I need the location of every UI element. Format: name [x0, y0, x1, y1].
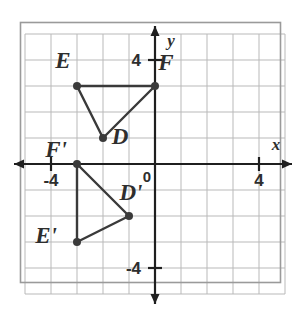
vertex-label-e: E: [54, 48, 70, 73]
vertex-point-e-prime: [73, 238, 81, 246]
vertex-point-d-prime: [125, 212, 133, 220]
y-tick-label-4: 4: [132, 51, 142, 70]
vertex-label-e-prime: E': [34, 223, 57, 248]
x-axis-label: x: [271, 135, 281, 154]
point-labels-layer: EFDF'D'E': [34, 48, 174, 248]
vertex-label-f: F: [157, 50, 173, 75]
graph-svg: y x 4 -4 -4 4 0 EFDF'D'E': [0, 0, 301, 313]
y-axis-label: y: [165, 31, 175, 50]
vertex-label-d: D: [111, 124, 129, 149]
x-tick-label-minus-4: -4: [43, 171, 59, 190]
vertex-label-f-prime: F': [44, 137, 67, 162]
y-axis-arrow-down: [151, 294, 160, 304]
x-axis-arrow-left: [14, 160, 24, 169]
x-axis-arrow-right: [282, 160, 292, 169]
vertex-point-d: [99, 134, 107, 142]
vertex-point-f: [151, 82, 159, 90]
y-tick-label-minus-4: -4: [126, 259, 142, 278]
vertex-label-d-prime: D': [119, 180, 143, 205]
vertex-point-e: [73, 82, 81, 90]
origin-label: 0: [143, 168, 151, 185]
y-axis-arrow-up: [151, 26, 160, 36]
coordinate-plane-figure: y x 4 -4 -4 4 0 EFDF'D'E': [0, 0, 301, 313]
vertex-point-f-prime: [73, 160, 81, 168]
x-tick-label-4: 4: [254, 171, 264, 190]
